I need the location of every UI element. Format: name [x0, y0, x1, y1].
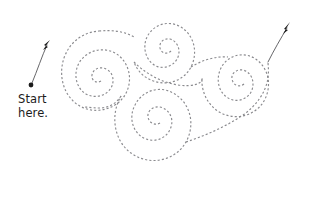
entry-arrow-line [32, 45, 47, 83]
start-dot [29, 83, 34, 88]
right-spiral [202, 55, 269, 117]
left-spiral [62, 31, 130, 110]
spiral-diagram: Start here. [0, 0, 312, 200]
connector-left-to-bottom [84, 96, 121, 108]
connector-left-to-top [99, 31, 134, 37]
exit-arrow-line [268, 28, 287, 62]
start-label-line2: here. [18, 106, 48, 120]
start-label-line1: Start [18, 92, 47, 106]
top-middle-spiral [134, 23, 195, 82]
bottom-middle-spiral [115, 89, 191, 160]
entry-arrow-head [43, 40, 50, 50]
figure-canvas: Start here. [0, 0, 312, 200]
connector-bottom-to-right [186, 62, 268, 142]
